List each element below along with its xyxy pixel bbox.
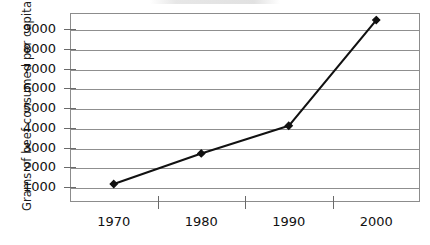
- y-tick-mark-5000: [64, 108, 76, 109]
- gridline-6000: [71, 89, 419, 90]
- y-tick-mark-6000: [64, 88, 76, 89]
- x-tick-mark-2: [245, 196, 246, 209]
- plot-area: [70, 13, 420, 202]
- y-tick-mark-7000: [64, 69, 76, 70]
- y-tick-mark-3000: [64, 148, 76, 149]
- x-tick-label-2000: 2000: [336, 214, 416, 229]
- y-tick-mark-9000: [64, 29, 76, 30]
- chart-title-artifact: [150, 0, 280, 4]
- y-tick-mark-8000: [64, 49, 76, 50]
- y-tick-label-4000: 4000: [0, 121, 56, 134]
- data-point-1970[interactable]: [107, 177, 121, 191]
- y-tick-mark-4000: [64, 128, 76, 129]
- x-tick-mark-1: [158, 196, 159, 209]
- y-tick-label-7000: 7000: [0, 62, 56, 75]
- y-tick-label-1000: 1000: [0, 180, 56, 193]
- y-tick-mark-1000: [64, 187, 76, 188]
- y-tick-label-3000: 3000: [0, 141, 56, 154]
- y-tick-label-6000: 6000: [0, 81, 56, 94]
- x-tick-mark-3: [333, 196, 334, 209]
- x-tick-label-1980: 1980: [161, 214, 241, 229]
- y-tick-label-2000: 2000: [0, 160, 56, 173]
- x-tick-label-1970: 1970: [74, 214, 154, 229]
- y-tick-label-5000: 5000: [0, 101, 56, 114]
- y-tick-mark-2000: [64, 167, 76, 168]
- gridline-5000: [71, 109, 419, 110]
- chart-figure: Grams of beef consumed per capita 900080…: [0, 0, 430, 245]
- gridline-8000: [71, 50, 419, 51]
- gridline-9000: [71, 30, 419, 31]
- data-point-1990[interactable]: [282, 119, 296, 133]
- gridline-2000: [71, 168, 419, 169]
- gridline-1000: [71, 188, 419, 189]
- y-tick-label-9000: 9000: [0, 22, 56, 35]
- gridline-3000: [71, 149, 419, 150]
- gridline-4000: [71, 129, 419, 130]
- x-tick-label-1990: 1990: [249, 214, 329, 229]
- y-tick-label-8000: 8000: [0, 42, 56, 55]
- gridline-7000: [71, 70, 419, 71]
